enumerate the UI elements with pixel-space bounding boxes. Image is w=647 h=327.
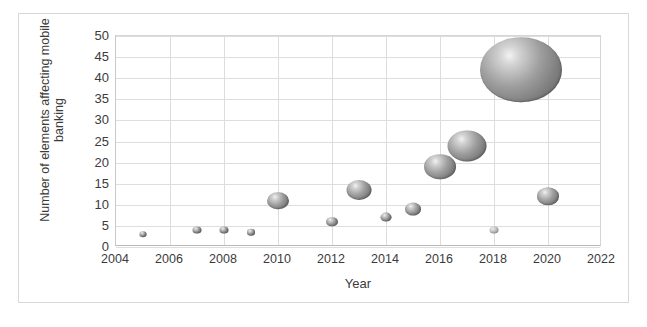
bubble-point <box>220 227 229 234</box>
bubble-point <box>347 180 372 200</box>
x-tick-label: 2010 <box>250 252 304 266</box>
y-tick-label: 15 <box>69 175 109 190</box>
x-tick-label: 2012 <box>304 252 358 266</box>
y-tick-label: 45 <box>69 49 109 64</box>
x-tick-label: 2006 <box>142 252 196 266</box>
x-axis-title: Year <box>115 276 601 291</box>
y-tick-label: 10 <box>69 196 109 211</box>
chart-frame: Number of elements affecting mobile bank… <box>18 13 629 303</box>
bubble-point <box>405 203 421 216</box>
y-tick-label: 50 <box>69 28 109 43</box>
bubble-point <box>267 192 289 210</box>
x-tick-label: 2016 <box>412 252 466 266</box>
y-tick-label: 30 <box>69 112 109 127</box>
gridline-horizontal <box>116 142 600 143</box>
bubble-point <box>381 213 392 222</box>
x-tick-label: 2008 <box>196 252 250 266</box>
y-tick-label: 20 <box>69 154 109 169</box>
y-tick-label: 5 <box>69 217 109 232</box>
bubble-point <box>448 130 487 161</box>
gridline-horizontal <box>116 226 600 227</box>
bubble-point <box>247 229 255 235</box>
gridline-vertical <box>332 36 333 245</box>
bubble-point <box>140 232 147 238</box>
x-tick-label: 2004 <box>88 252 142 266</box>
bubble-point <box>490 227 499 234</box>
bubble-point <box>424 154 456 180</box>
bubble-point <box>480 37 562 103</box>
y-tick-label: 25 <box>69 133 109 148</box>
gridline-horizontal <box>116 247 600 248</box>
gridline-horizontal <box>116 163 600 164</box>
x-tick-label: 2014 <box>358 252 412 266</box>
bubble-point <box>326 217 338 227</box>
gridline-vertical <box>440 36 441 245</box>
gridline-vertical <box>278 36 279 245</box>
x-axis-tick-labels: 2004200620082010201220142016201820202022 <box>115 252 601 272</box>
gridline-vertical <box>224 36 225 245</box>
y-axis-title: Number of elements affecting mobile bank… <box>38 5 66 235</box>
x-tick-label: 2018 <box>466 252 520 266</box>
y-axis-tick-labels: 05101520253035404550 <box>65 35 109 246</box>
x-tick-label: 2020 <box>520 252 574 266</box>
gridline-horizontal <box>116 205 600 206</box>
x-tick-label: 2022 <box>574 252 628 266</box>
y-tick-label: 35 <box>69 91 109 106</box>
gridline-horizontal <box>116 120 600 121</box>
plot-area <box>115 35 601 246</box>
y-tick-label: 40 <box>69 70 109 85</box>
bubble-point <box>537 188 559 206</box>
bubble-point <box>193 227 202 234</box>
gridline-vertical <box>170 36 171 245</box>
